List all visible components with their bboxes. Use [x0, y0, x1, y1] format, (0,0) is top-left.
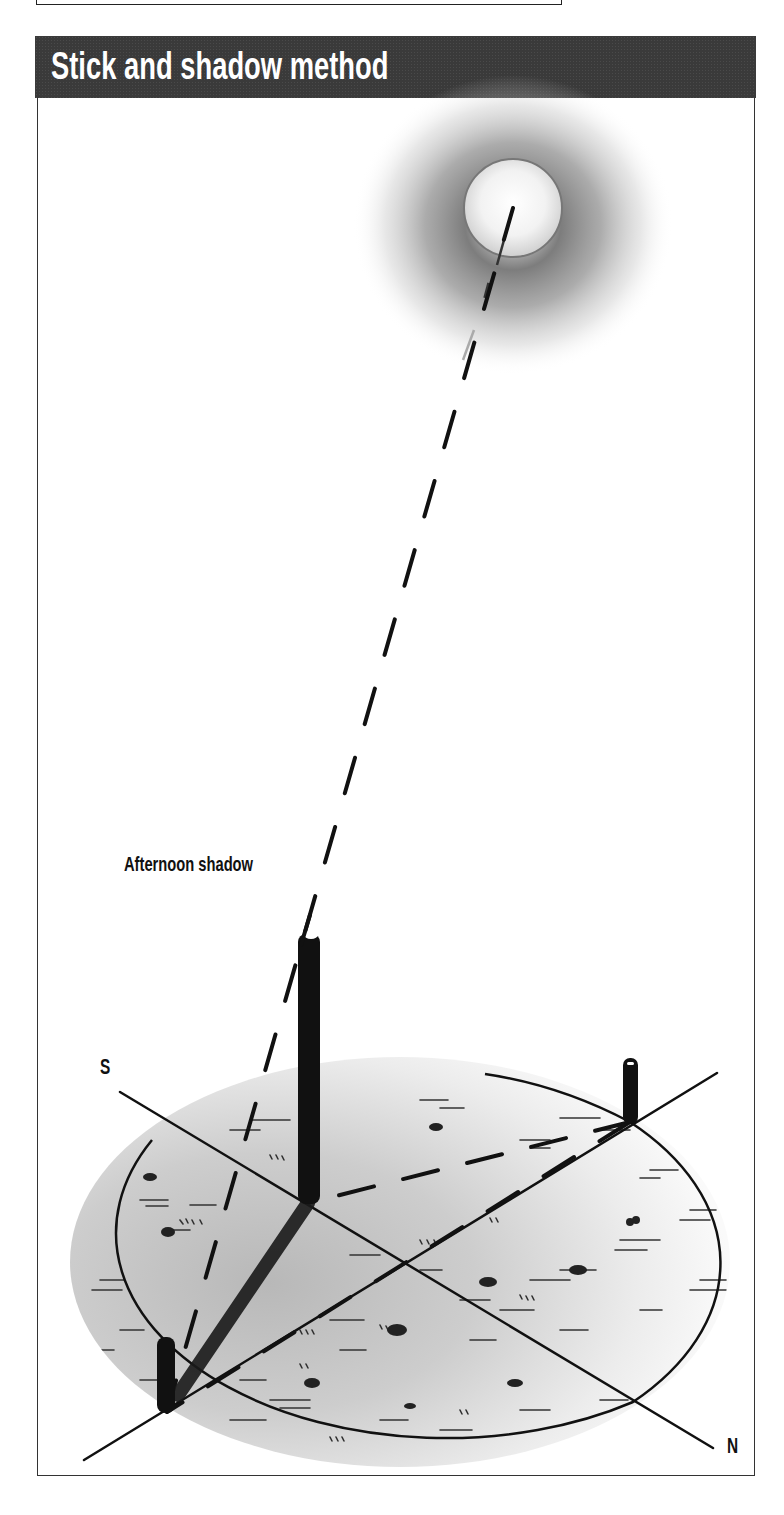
- north-label: N: [727, 1433, 738, 1459]
- center-stick-icon: [298, 915, 320, 1204]
- stick-shadow-illustration: [0, 0, 784, 1515]
- sun-icon: [353, 75, 673, 375]
- south-label: S: [100, 1054, 110, 1080]
- right-marker-stick-icon: [623, 1058, 638, 1124]
- afternoon-shadow-label: Afternoon shadow: [124, 852, 253, 876]
- left-marker-stick-icon: [157, 1337, 175, 1413]
